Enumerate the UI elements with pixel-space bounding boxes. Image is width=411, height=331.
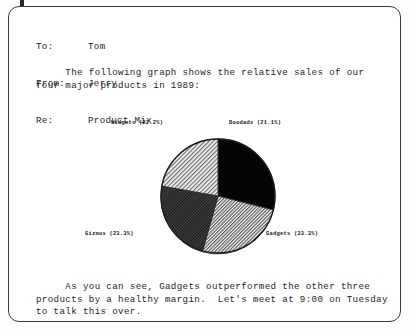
scanned-memo-page: To:Tom From:Jerry Re:Product Mix The fol… — [0, 0, 411, 331]
pie-label-doodads: Doodads (21.1%) — [229, 120, 281, 126]
memo-border-frame: To:Tom From:Jerry Re:Product Mix The fol… — [8, 6, 401, 322]
pie-chart: Widgets (22.2%) Doodads (21.1%) Gadgets … — [9, 107, 402, 267]
memo-content: To:Tom From:Jerry Re:Product Mix The fol… — [9, 7, 402, 323]
intro-paragraph: The following graph shows the relative s… — [36, 67, 364, 92]
pie-label-gadgets: Gadgets (33.3%) — [266, 231, 318, 237]
memo-header-label-to: To: — [36, 41, 88, 53]
closing-paragraph: As you can see, Gadgets outperformed the… — [36, 281, 388, 319]
pie-chart-graphic — [9, 107, 402, 267]
memo-header-row-to: To:Tom — [36, 41, 152, 53]
memo-header-value-to: Tom — [88, 41, 105, 52]
pie-label-widgets: Widgets (22.2%) — [111, 120, 163, 126]
pie-slice-widgets — [162, 139, 218, 196]
pie-label-gizmos: Gizmos (23.3%) — [85, 231, 134, 237]
